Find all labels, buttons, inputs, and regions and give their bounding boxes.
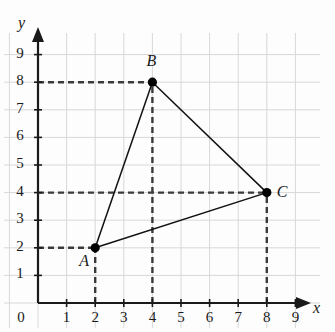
y-tick-label-7: 7	[11, 100, 29, 117]
axis-tick-marks	[34, 55, 295, 307]
x-axis-label: x	[313, 299, 320, 317]
vertex-label-a: A	[79, 252, 89, 270]
y-tick-label-8: 8	[11, 72, 29, 89]
x-tick-label-7: 7	[229, 309, 247, 326]
y-tick-label-9: 9	[11, 45, 29, 62]
vertex-label-c: C	[277, 183, 288, 201]
y-tick-label-1: 1	[11, 265, 29, 282]
x-tick-label-5: 5	[172, 309, 190, 326]
x-tick-label-8: 8	[258, 309, 276, 326]
x-tick-label-9: 9	[286, 309, 304, 326]
plot-canvas	[0, 0, 335, 332]
coordinate-plane-figure: y x 0 123456789 123456789 ABC	[0, 0, 335, 332]
y-axis-label: y	[18, 14, 25, 32]
y-tick-label-6: 6	[11, 127, 29, 144]
x-tick-label-3: 3	[115, 309, 133, 326]
x-tick-label-1: 1	[58, 309, 76, 326]
x-tick-label-6: 6	[201, 309, 219, 326]
y-tick-label-4: 4	[11, 183, 29, 200]
grid-lines	[4, 33, 320, 328]
x-tick-label-4: 4	[143, 309, 161, 326]
x-tick-label-2: 2	[86, 309, 104, 326]
vertex-label-b: B	[146, 52, 156, 70]
y-tick-label-2: 2	[11, 238, 29, 255]
origin-label: 0	[12, 309, 30, 326]
axis-lines	[32, 27, 311, 309]
y-tick-label-3: 3	[11, 210, 29, 227]
y-tick-label-5: 5	[11, 155, 29, 172]
